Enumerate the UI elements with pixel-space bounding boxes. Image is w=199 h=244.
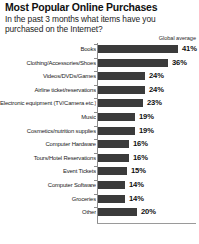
- plot-area: Books41%Clothing/Accessories/Shoes36%Vid…: [0, 43, 199, 223]
- category-label: Music: [0, 113, 96, 121]
- bar: [98, 113, 135, 121]
- bar: [98, 195, 125, 203]
- category-label: Event Tickets: [0, 167, 96, 175]
- bar-value-label: 14%: [129, 180, 144, 189]
- chart-page: Most Popular Online Purchases In the pas…: [0, 0, 199, 244]
- table-row: Clothing/Accessories/Shoes36%: [0, 58, 199, 70]
- bar: [98, 45, 178, 53]
- table-row: Electronic equipment (TV/Camera etc.)23%: [0, 98, 199, 110]
- bar-value-label: 15%: [131, 166, 146, 175]
- table-row: Videos/DVDs/Games24%: [0, 71, 199, 83]
- table-row: Other20%: [0, 207, 199, 219]
- category-label: Cosmetics/nutrition supplies: [0, 127, 96, 135]
- table-row: Tours/Hotel Reservations16%: [0, 153, 199, 165]
- bar: [98, 86, 145, 94]
- bar: [98, 167, 127, 175]
- category-label: Groceries: [0, 195, 96, 203]
- category-label: Computer Hardware: [0, 140, 96, 148]
- category-label: Videos/DVDs/Games: [0, 72, 96, 80]
- bar-value-label: 24%: [149, 85, 164, 94]
- bar-value-label: 41%: [182, 44, 197, 53]
- bar-value-label: 16%: [133, 153, 148, 162]
- category-label: Clothing/Accessories/Shoes: [0, 59, 96, 67]
- category-label: Books: [0, 45, 96, 53]
- bar-value-label: 16%: [133, 139, 148, 148]
- table-row: Cosmetics/nutrition supplies19%: [0, 126, 199, 138]
- table-row: Music19%: [0, 112, 199, 124]
- table-row: Groceries14%: [0, 194, 199, 206]
- category-label: Electronic equipment (TV/Camera etc.): [0, 99, 96, 107]
- table-row: Airline ticket/reservations24%: [0, 85, 199, 97]
- bar: [98, 140, 129, 148]
- bar-value-label: 23%: [147, 98, 162, 107]
- category-label: Other: [0, 208, 96, 216]
- bar: [98, 127, 135, 135]
- table-row: Books41%: [0, 44, 199, 56]
- table-row: Event Tickets15%: [0, 166, 199, 178]
- category-label: Computer Software: [0, 181, 96, 189]
- bar: [98, 154, 129, 162]
- bar: [98, 208, 137, 216]
- table-row: Computer Hardware16%: [0, 139, 199, 151]
- table-row: Computer Software14%: [0, 180, 199, 192]
- chart-subtitle: In the past 3 months what items have you…: [5, 14, 165, 34]
- bar-value-label: 24%: [149, 71, 164, 80]
- bar-value-label: 14%: [129, 194, 144, 203]
- x-axis-baseline: [97, 223, 196, 224]
- bar: [98, 72, 145, 80]
- bar-value-label: 19%: [139, 126, 154, 135]
- bar: [98, 59, 168, 67]
- bar-value-label: 20%: [141, 207, 156, 216]
- bar-value-label: 19%: [139, 112, 154, 121]
- legend-global-average: Global average: [159, 35, 196, 41]
- category-label: Tours/Hotel Reservations: [0, 154, 96, 162]
- bar-value-label: 36%: [172, 58, 187, 67]
- category-label: Airline ticket/reservations: [0, 86, 96, 94]
- bar: [98, 181, 125, 189]
- page-title: Most Popular Online Purchases: [5, 1, 195, 13]
- bar: [98, 99, 143, 107]
